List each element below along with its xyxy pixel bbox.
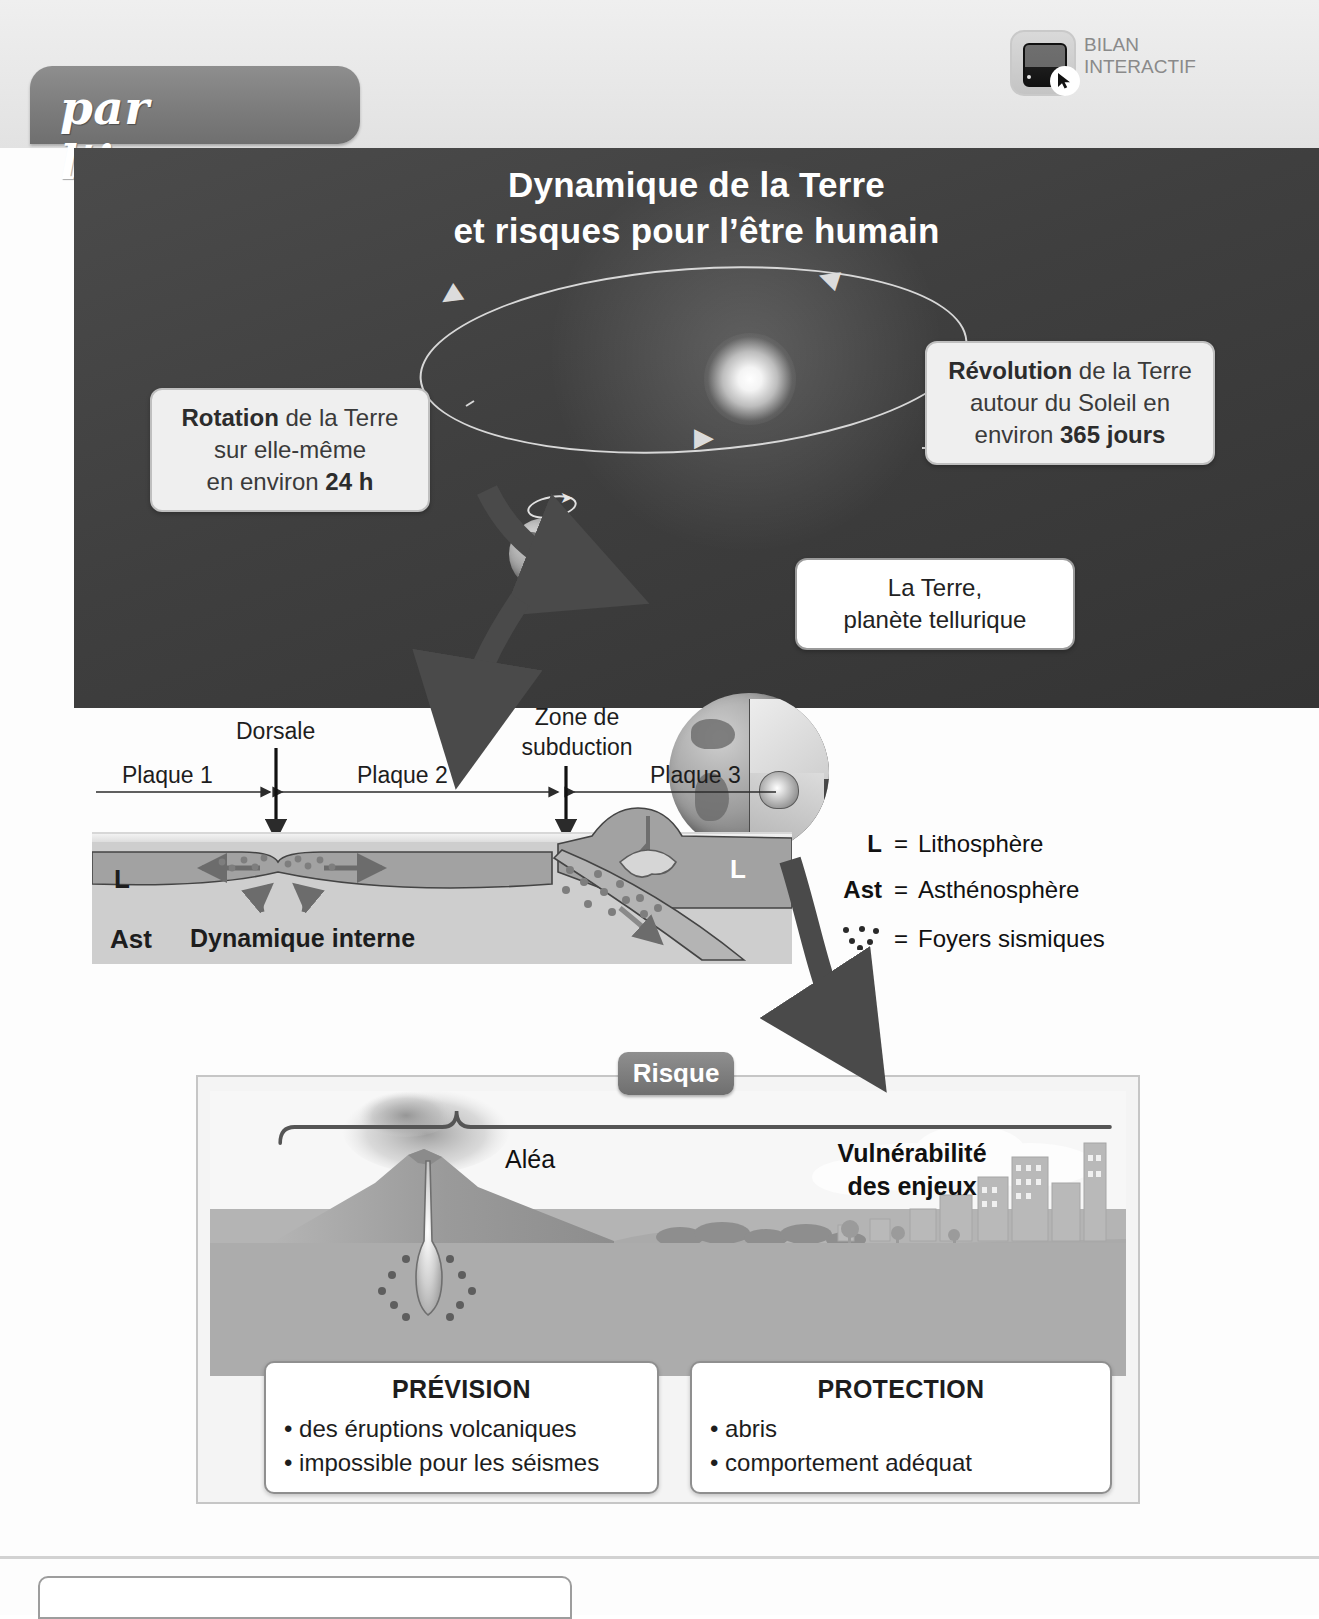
legend-key-dots bbox=[826, 924, 882, 954]
list-item: • impossible pour les séismes bbox=[284, 1446, 639, 1480]
callout-tellurique-line2: planète tellurique bbox=[815, 604, 1055, 636]
list-item: • comportement adéquat bbox=[710, 1446, 1092, 1480]
legend-label-lithosphere: Lithosphère bbox=[918, 832, 1043, 856]
page-title: Dynamique de la Terre et risques pour l’… bbox=[74, 162, 1319, 254]
list-item: • des éruptions volcaniques bbox=[284, 1412, 639, 1446]
callout-rotation-line3: en environ 24 h bbox=[170, 466, 410, 498]
label-vulnerabilite-line1: Vulnérabilité bbox=[802, 1137, 1022, 1170]
plate-tectonics-diagram: Dorsale Zone de subduction Plaque 1 Plaq… bbox=[92, 712, 792, 964]
legend-equals: = bbox=[894, 832, 908, 856]
earth-icon bbox=[509, 518, 581, 590]
callout-revolution-value: 365 jours bbox=[1060, 421, 1165, 448]
callout-rotation: Rotation de la Terre sur elle-même en en… bbox=[150, 388, 430, 512]
footer-tab bbox=[38, 1576, 572, 1619]
label-dynamique-interne: Dynamique interne bbox=[190, 924, 415, 953]
label-lithosphere-right: L bbox=[730, 854, 746, 885]
callout-rotation-keyword: Rotation bbox=[182, 404, 279, 431]
callout-revolution-keyword: Révolution bbox=[948, 357, 1072, 384]
callout-tellurique-line1: La Terre, bbox=[815, 572, 1055, 604]
title-line-1: Dynamique de la Terre bbox=[74, 162, 1319, 208]
box-prevision-title: PRÉVISION bbox=[284, 1375, 639, 1404]
bilan-interactif-badge[interactable]: BILAN INTERACTIF bbox=[1010, 30, 1260, 104]
box-protection-title: PROTECTION bbox=[710, 1375, 1092, 1404]
continent-shape bbox=[523, 556, 539, 580]
title-line-2: et risques pour l’être humain bbox=[74, 208, 1319, 254]
risk-scene: Aléa Vulnérabilité des enjeux bbox=[210, 1091, 1126, 1376]
risque-badge: Risque bbox=[618, 1052, 734, 1095]
legend-equals: = bbox=[894, 878, 908, 902]
callout-rotation-rest: de la Terre bbox=[279, 404, 399, 431]
callout-revolution-pre: environ bbox=[975, 421, 1060, 448]
continent-shape bbox=[519, 532, 541, 549]
seismic-dots-icon bbox=[838, 924, 882, 950]
callout-revolution-line3: environ 365 jours bbox=[945, 419, 1195, 451]
label-lithosphere-left: L bbox=[114, 864, 130, 895]
label-alea: Aléa bbox=[505, 1143, 555, 1176]
callout-revolution-line1: Révolution de la Terre bbox=[945, 355, 1195, 387]
callout-rotation-line2: sur elle-même bbox=[170, 434, 410, 466]
label-vulnerabilite-line2: des enjeux bbox=[802, 1170, 1022, 1203]
legend-row: Ast = Asthénosphère bbox=[826, 878, 1105, 902]
callout-rotation-pre: en environ bbox=[207, 468, 326, 495]
legend-row: L = Lithosphère bbox=[826, 832, 1105, 856]
badge-text-block: BILAN INTERACTIF bbox=[1084, 34, 1196, 79]
label-asthenosphere: Ast bbox=[110, 924, 152, 955]
box-protection-list: • abris • comportement adéquat bbox=[710, 1412, 1092, 1480]
legend-key-Ast: Ast bbox=[826, 878, 882, 902]
callout-rotation-line1: Rotation de la Terre bbox=[170, 402, 410, 434]
legend-row: = Foyers sismiques bbox=[826, 924, 1105, 954]
label-vulnerabilite: Vulnérabilité des enjeux bbox=[802, 1137, 1022, 1202]
sun-icon bbox=[704, 333, 796, 425]
callout-planete-tellurique: La Terre, planète tellurique bbox=[795, 558, 1075, 650]
callout-revolution-rest: de la Terre bbox=[1072, 357, 1192, 384]
box-prevision-list: • des éruptions volcaniques • impossible… bbox=[284, 1412, 639, 1480]
tablet-home-dot-icon bbox=[1027, 75, 1031, 79]
cursor-arrow-icon bbox=[1057, 72, 1073, 90]
callout-revolution-line2: autour du Soleil en bbox=[945, 387, 1195, 419]
box-protection: PROTECTION • abris • comportement adéqua… bbox=[690, 1361, 1112, 1494]
orbit-arrow-bottom-icon: ▶ bbox=[694, 424, 714, 450]
continent-shape bbox=[551, 538, 569, 554]
legend-label-foyers-sismiques: Foyers sismiques bbox=[918, 927, 1105, 951]
list-item: • abris bbox=[710, 1412, 1092, 1446]
callout-rotation-value: 24 h bbox=[325, 468, 373, 495]
cross-section-legend: L = Lithosphère Ast = Asthénosphère = Fo… bbox=[826, 832, 1105, 976]
box-prevision: PRÉVISION • des éruptions volcaniques • … bbox=[264, 1361, 659, 1494]
orbit-arrow-left-icon: ◀ bbox=[433, 279, 464, 312]
footer-divider bbox=[0, 1556, 1319, 1559]
tab-par-l-image[interactable]: par l’image bbox=[30, 66, 360, 144]
rotation-arrow-icon: ➤ bbox=[560, 488, 573, 507]
legend-key-L: L bbox=[826, 832, 882, 856]
legend-equals: = bbox=[894, 927, 908, 951]
cursor-icon bbox=[1050, 66, 1080, 96]
callout-revolution: Révolution de la Terre autour du Soleil … bbox=[925, 341, 1215, 465]
legend-label-asthenosphere: Asthénosphère bbox=[918, 878, 1079, 902]
badge-line-1: BILAN bbox=[1084, 34, 1196, 56]
badge-line-2: INTERACTIF bbox=[1084, 56, 1196, 78]
